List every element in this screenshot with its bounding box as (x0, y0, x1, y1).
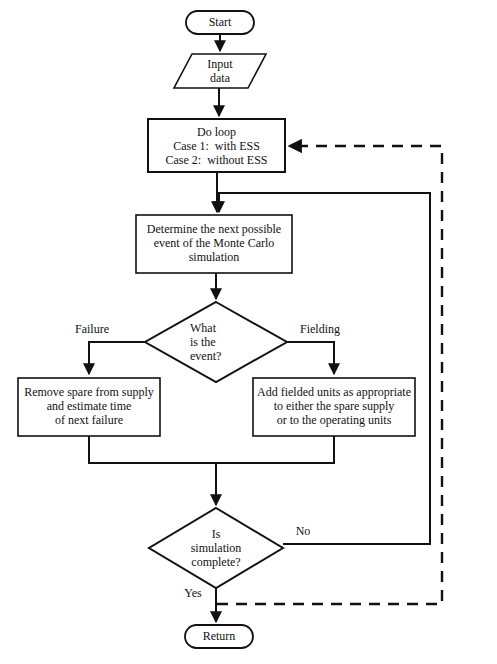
remove-spare-shape (18, 378, 160, 436)
sim-complete-shape (149, 508, 283, 588)
what-event-shape (145, 302, 287, 382)
edge-failure-to-remove-spare (89, 342, 145, 374)
determine-event-shape (136, 215, 292, 273)
return-terminal-shape (185, 625, 253, 648)
do-loop-shape (148, 119, 285, 172)
input-data-shape (174, 54, 266, 88)
edge-fielding-to-add-fielded (287, 342, 334, 374)
flowchart-graphics (0, 0, 497, 664)
flowchart-canvas: Start Input data Do loop Case 1: with ES… (0, 0, 497, 664)
start-terminal-shape (186, 11, 254, 34)
add-fielded-shape (253, 378, 415, 436)
